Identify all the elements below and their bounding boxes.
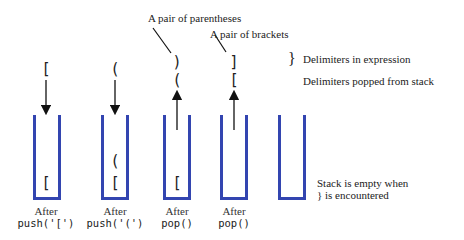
expression-brace: } (288, 50, 296, 68)
incoming-delimiter-1: [ (38, 62, 54, 77)
brackets-pair-label: A pair of brackets (210, 28, 289, 40)
stack-2-item-bottom: [ (107, 176, 123, 191)
caption-step-4: After pop() (199, 206, 269, 230)
parentheses-pair-label: A pair of parentheses (148, 12, 241, 24)
incoming-delimiter-2: ( (107, 62, 123, 77)
caption-1-op: push('[') (11, 217, 81, 230)
expression-legend-label: Delimiters in expression (303, 53, 411, 65)
caption-2-after: After (80, 206, 150, 217)
caption-1-after: After (11, 206, 81, 217)
empty-stack-note-line2: } is encountered (317, 189, 408, 201)
popped-delimiter-4: [ (226, 73, 242, 88)
stack-3-item-bottom: [ (169, 176, 185, 191)
caption-4-op: pop() (199, 217, 269, 230)
caption-4-after: After (199, 206, 269, 217)
parentheses-leader (153, 28, 171, 53)
empty-stack-note: Stack is empty when } is encountered (317, 177, 408, 201)
empty-stack-note-line1: Stack is empty when (317, 177, 408, 189)
stack-5-empty (278, 115, 306, 200)
stack-4 (220, 115, 248, 200)
popped-delimiter-3: ( (169, 73, 185, 88)
caption-step-1: After push('[') (11, 206, 81, 230)
caption-2-op: push('(') (80, 217, 150, 230)
stack-1-item-bottom: [ (38, 176, 54, 191)
expression-delimiter-4: ] (226, 55, 242, 70)
stack-2-item-top: ( (107, 154, 123, 169)
popped-legend-label: Delimiters popped from stack (303, 75, 434, 87)
expression-delimiter-3: ) (169, 55, 185, 70)
caption-step-2: After push('(') (80, 206, 150, 230)
